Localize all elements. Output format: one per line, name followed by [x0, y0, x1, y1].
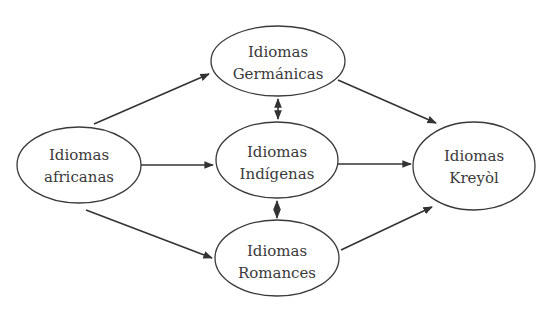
node-kreyol: Idiomas Kreyòl [413, 122, 535, 210]
edge-africanas-germanicas [94, 74, 209, 124]
node-romances-line2: Romances [238, 264, 316, 282]
node-romances: Idiomas Romances [215, 220, 339, 296]
node-romances-line1: Idiomas [247, 242, 307, 260]
node-africanas: Idiomas africanas [17, 127, 141, 203]
node-germanicas-line2: Germánicas [233, 65, 324, 83]
edge-africanas-romances [86, 210, 212, 258]
node-africanas-line1: Idiomas [49, 146, 109, 164]
node-indigenas-line2: Indígenas [240, 165, 315, 183]
node-germanicas: Idiomas Germánicas [211, 26, 345, 96]
edge-romances-kreyol [341, 207, 432, 250]
node-indigenas-line1: Idiomas [247, 143, 307, 161]
language-flow-diagram: Idiomas africanas Idiomas Germánicas Idi… [0, 0, 551, 313]
node-kreyol-line2: Kreyòl [449, 169, 499, 187]
node-africanas-line2: africanas [44, 168, 114, 186]
node-kreyol-line1: Idiomas [444, 147, 504, 165]
node-germanicas-line1: Idiomas [248, 43, 308, 61]
edge-germanicas-kreyol [338, 80, 436, 123]
node-indigenas: Idiomas Indígenas [216, 122, 338, 198]
